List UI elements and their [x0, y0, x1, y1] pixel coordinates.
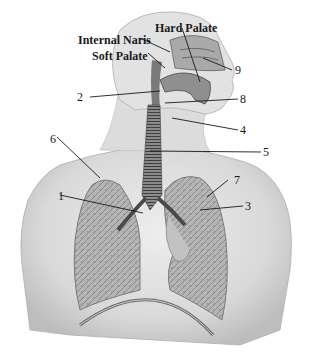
label-5: 5 — [263, 146, 269, 158]
anatomy-illustration — [0, 0, 311, 358]
label-3: 3 — [245, 200, 251, 212]
label-hard-palate: Hard Palate — [155, 22, 217, 34]
label-6: 6 — [50, 133, 56, 145]
label-7: 7 — [234, 174, 240, 186]
label-2: 2 — [77, 91, 83, 103]
label-8: 8 — [240, 93, 246, 105]
label-soft-palate: Soft Palate — [92, 50, 148, 62]
label-9: 9 — [235, 64, 241, 76]
respiratory-diagram: Hard Palate Internal Naris Soft Palate 2… — [0, 0, 311, 358]
label-internal-naris: Internal Naris — [78, 34, 151, 46]
label-4: 4 — [240, 124, 246, 136]
label-1: 1 — [58, 190, 64, 202]
